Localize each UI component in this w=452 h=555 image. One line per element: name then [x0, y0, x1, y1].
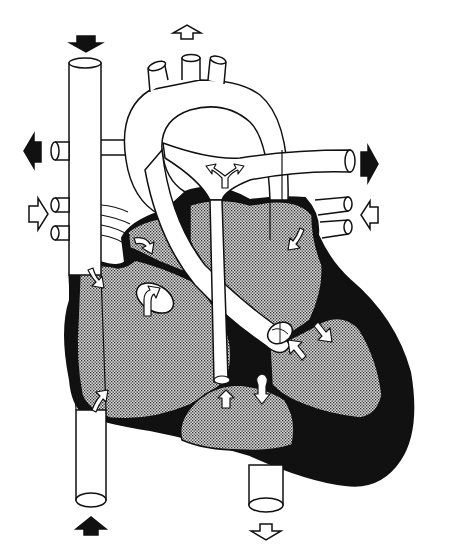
pulmonary-valve	[214, 376, 230, 384]
heart-diagram: Heart circulation diagram	[0, 0, 452, 555]
arrow-up-black-icon	[76, 517, 106, 535]
inferior-vena-cava	[76, 410, 106, 500]
arrow-right-white-icon	[29, 198, 48, 230]
arrow-right-black-icon	[361, 146, 378, 182]
arrow-down-black-icon	[70, 36, 102, 52]
heart-diagram-svg	[0, 0, 452, 555]
arrow-left-black-icon	[24, 134, 41, 168]
arrow-left-white-icon	[361, 201, 378, 229]
arrow-down-white-icon	[251, 524, 281, 540]
superior-vena-cava	[69, 63, 101, 275]
right-pulmonary-veins	[315, 197, 352, 238]
arrow-up-white-icon	[173, 25, 201, 39]
